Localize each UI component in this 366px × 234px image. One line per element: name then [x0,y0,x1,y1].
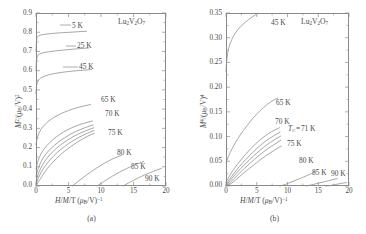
curve-b-80K [280,172,316,186]
curve-a-45K [36,70,92,94]
panel-b: 0.35 0.30 0.25 0.20 0.15 0.10 0.05 0.00 … [183,0,366,234]
curve-b-71K [226,132,280,184]
figure-container: 0.9 0.8 0.7 0.6 0.5 0.4 0.3 0.2 0.1 0.0 … [0,0,366,234]
curve-b-90K [326,183,347,186]
curve-a-25K [36,48,89,71]
curve-a-72K [36,128,94,181]
curve-a-80K [72,155,121,186]
curve-b-70K [226,128,280,182]
curves-svg-a [0,0,183,234]
curve-b-45K [226,13,258,71]
curve-a-90K [123,168,161,186]
curves-svg-b [183,0,366,234]
curve-a-71K [36,125,93,177]
curve-a-85K [97,161,144,186]
panel-a: 0.9 0.8 0.7 0.6 0.5 0.4 0.3 0.2 0.1 0.0 … [0,0,183,234]
curve-b-73K [226,140,281,186]
